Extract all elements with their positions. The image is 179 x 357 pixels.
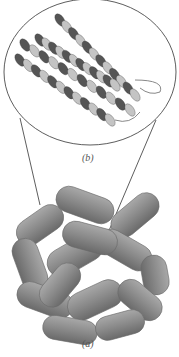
cage-assembly [8, 183, 171, 347]
zoom-connector-left [20, 118, 40, 205]
panel-label-a: (a) [82, 338, 94, 349]
panel-label-b: (b) [82, 152, 94, 163]
figure-canvas [0, 0, 179, 357]
